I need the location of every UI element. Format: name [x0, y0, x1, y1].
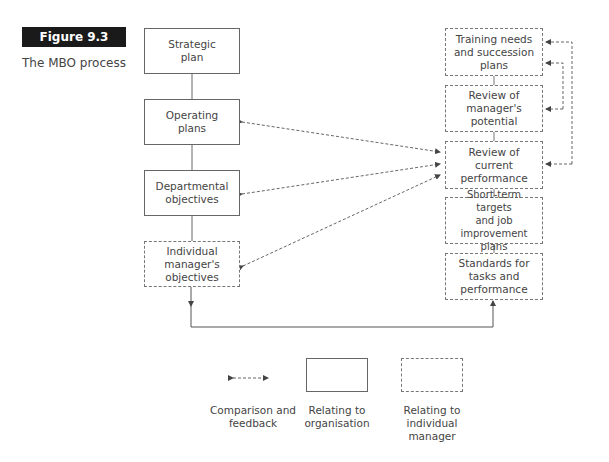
box-individual-objectives: Individual manager's objectives [144, 241, 240, 287]
box-training-needs: Training needs and succession plans [445, 28, 543, 76]
box-departmental-objectives: Departmental objectives [144, 170, 240, 216]
box-review-potential: Review of manager's potential [445, 85, 543, 132]
box-standards: Standards for tasks and performance [445, 253, 543, 300]
legend-organisation-label: Relating to organisation [290, 404, 384, 430]
legend-individual-label: Relating to individual manager [385, 404, 479, 443]
box-operating-plans: Operating plans [144, 99, 240, 145]
box-strategic-plan: Strategic plan [144, 28, 240, 74]
legend-solid-box [306, 358, 368, 392]
box-review-current: Review of current performance [445, 141, 543, 189]
legend-comparison-label: Comparison and feedback [205, 404, 301, 430]
box-short-term-targets: Short-term targets and job improvement p… [445, 197, 543, 244]
legend-dashed-box [401, 358, 463, 392]
